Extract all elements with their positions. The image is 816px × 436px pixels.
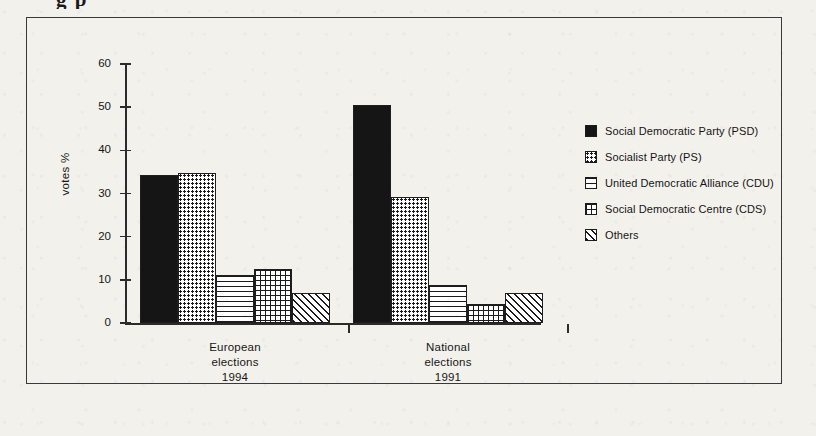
legend-item-5: Others <box>585 222 785 248</box>
legend-item-3: United Democratic Alliance (CDU) <box>585 170 785 196</box>
bar <box>292 293 330 323</box>
bar-group-1 <box>140 62 330 323</box>
y-tick-label-text: 20 <box>81 231 111 243</box>
legend-item-label: Social Democratic Centre (CDS) <box>605 203 766 215</box>
figure-frame: votes % 0102030405060 Europeanelections1… <box>26 17 782 384</box>
y-tick-40 <box>120 150 131 152</box>
bar <box>140 175 178 323</box>
clipped-document-title: g p <box>0 0 560 9</box>
category-label-line: 1991 <box>368 370 528 385</box>
legend-item-1: Social Democratic Party (PSD) <box>585 118 785 144</box>
bar <box>429 285 467 323</box>
legend-swatch-icon <box>585 177 597 189</box>
legend-swatch-icon <box>585 203 597 215</box>
y-tick-label-30: 30 <box>79 188 111 200</box>
document-title-text: g p <box>0 0 560 9</box>
y-tick-30 <box>120 193 131 195</box>
chart-legend: Social Democratic Party (PSD)Socialist P… <box>585 118 785 248</box>
category-label-line: elections <box>368 355 528 370</box>
y-tick-label-text: 10 <box>81 274 111 286</box>
bar <box>254 269 292 323</box>
y-tick-label-50: 50 <box>79 101 111 113</box>
bar <box>216 275 254 323</box>
legend-item-label: United Democratic Alliance (CDU) <box>605 177 774 189</box>
category-label-1: Europeanelections1994 <box>155 340 315 385</box>
bar <box>505 293 543 323</box>
legend-item-label: Socialist Party (PS) <box>605 151 702 163</box>
y-tick-label-text: 0 <box>81 317 111 329</box>
bar <box>178 173 216 323</box>
legend-swatch-icon <box>585 151 597 163</box>
y-tick-0 <box>120 322 131 324</box>
legend-item-4: Social Democratic Centre (CDS) <box>585 196 785 222</box>
y-tick-label-text: 60 <box>81 58 111 70</box>
y-tick-label-20: 20 <box>79 231 111 243</box>
y-tick-label-text: 50 <box>81 101 111 113</box>
legend-item-label: Social Democratic Party (PSD) <box>605 125 758 137</box>
category-label-line: elections <box>155 355 315 370</box>
legend-item-label: Others <box>605 229 639 241</box>
legend-item-2: Socialist Party (PS) <box>585 144 785 170</box>
y-axis-title: votes % <box>59 134 71 214</box>
legend-swatch-icon <box>585 229 597 241</box>
x-tick-2 <box>567 324 569 333</box>
category-label-line: 1994 <box>155 370 315 385</box>
bar <box>391 197 429 323</box>
category-label-line: National <box>368 340 528 355</box>
y-tick-label-text: 30 <box>81 188 111 200</box>
y-tick-label-40: 40 <box>79 144 111 156</box>
bar-group-2 <box>353 62 543 323</box>
legend-swatch-icon <box>585 125 597 137</box>
x-tick-1 <box>348 324 350 333</box>
y-tick-20 <box>120 236 131 238</box>
y-tick-10 <box>120 279 131 281</box>
y-tick-50 <box>120 106 131 108</box>
bar <box>467 304 505 323</box>
y-tick-label-0: 0 <box>79 317 111 329</box>
y-tick-label-10: 10 <box>79 274 111 286</box>
bar <box>353 105 391 323</box>
y-tick-label-text: 40 <box>81 144 111 156</box>
y-tick-60 <box>120 63 131 65</box>
x-axis-line <box>125 323 541 325</box>
category-label-line: European <box>155 340 315 355</box>
y-tick-label-60: 60 <box>79 58 111 70</box>
category-label-2: Nationalelections1991 <box>368 340 528 385</box>
